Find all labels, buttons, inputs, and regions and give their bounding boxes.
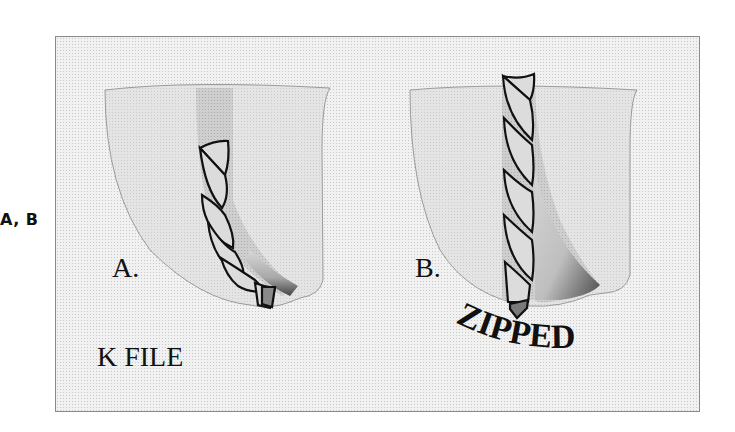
tooth-b (410, 74, 637, 318)
diagram-canvas: A. K FILE B. ZIPPED (0, 0, 735, 432)
panel-label-b: B. (415, 252, 441, 283)
panel-label-a: A. (112, 252, 139, 283)
caption-k-file: K FILE (97, 341, 183, 372)
